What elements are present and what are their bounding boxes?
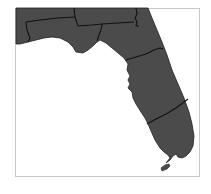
florida-map: [0, 0, 211, 194]
map-container: Florida regions: [0, 0, 211, 194]
